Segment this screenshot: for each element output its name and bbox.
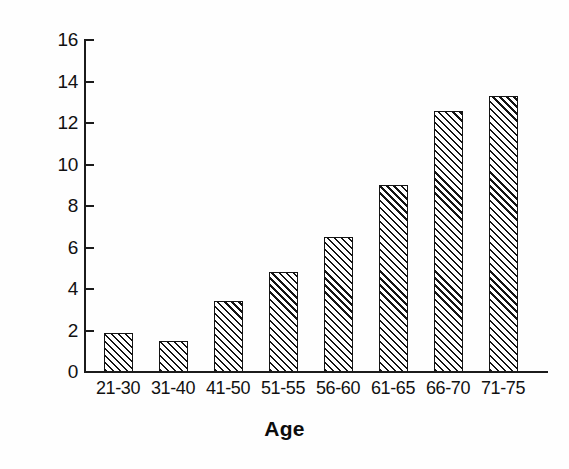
x-axis-tick-label: 56-60 — [308, 379, 368, 397]
x-axis-tick-label: 51-55 — [253, 379, 313, 397]
y-axis-tick-label: 10 — [34, 155, 78, 175]
bar — [269, 272, 298, 372]
x-axis-title: Age — [0, 417, 569, 441]
x-axis-tick-label: 31-40 — [143, 379, 203, 397]
x-axis-tick-label: 41-50 — [198, 379, 258, 397]
y-axis-tick-label-text: 0 — [34, 362, 78, 381]
y-axis-tick-label: 4 — [34, 279, 78, 299]
x-axis-tick-label: 61-65 — [363, 379, 423, 397]
bar — [324, 237, 353, 372]
y-axis-tick-label: 0 — [34, 362, 78, 382]
bar — [434, 111, 463, 372]
y-axis-tick-label: 12 — [34, 113, 78, 133]
y-axis-tick-label-text: 2 — [34, 321, 78, 340]
bar — [379, 185, 408, 372]
y-axis-tick-label: 2 — [34, 321, 78, 341]
y-axis-tick-label: 8 — [34, 196, 78, 216]
x-axis-tick-label: 21-30 — [88, 379, 148, 397]
x-axis-tick-label: 71-75 — [473, 379, 533, 397]
bar — [489, 96, 518, 372]
y-axis-tick-label-text: 14 — [34, 72, 78, 91]
bars-layer — [85, 40, 548, 372]
bar — [159, 341, 188, 372]
bar — [104, 333, 133, 372]
y-axis-tick-label: 14 — [34, 72, 78, 92]
x-axis-tick-label: 66-70 — [418, 379, 478, 397]
bar-chart-figure: Frequency (%) 0246810121416 21-3031-4041… — [0, 0, 569, 469]
y-axis-tick-label-text: 16 — [34, 30, 78, 49]
bar — [214, 301, 243, 372]
y-axis-tick-label-text: 10 — [34, 155, 78, 174]
y-axis-tick-label-text: 8 — [34, 196, 78, 215]
y-axis-tick-label: 6 — [34, 238, 78, 258]
x-axis-line — [84, 371, 548, 373]
y-axis-tick-label-text: 12 — [34, 113, 78, 132]
y-axis-tick-label-text: 6 — [34, 238, 78, 257]
y-axis-tick-label-text: 4 — [34, 279, 78, 298]
y-axis-tick-label: 16 — [34, 30, 78, 50]
